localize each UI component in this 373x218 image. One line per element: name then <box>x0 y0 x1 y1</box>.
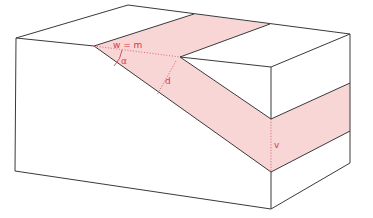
geologic-block-diagram: w = m α d v <box>0 0 373 218</box>
vertical-thickness-label: v <box>274 140 280 150</box>
outcrop-width-label: w = m <box>113 40 142 50</box>
true-thickness-label: d <box>165 76 171 86</box>
dip-angle-label: α <box>121 56 127 66</box>
